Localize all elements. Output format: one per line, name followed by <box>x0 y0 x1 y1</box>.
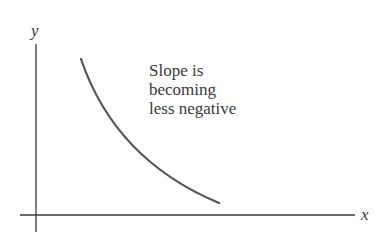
diagram-canvas: y x Slope is becoming less negative <box>0 0 378 244</box>
x-axis-label: x <box>360 205 369 224</box>
annotation-line-1: Slope is <box>149 61 203 80</box>
y-axis-label: y <box>29 21 39 40</box>
diagram-svg: y x Slope is becoming less negative <box>0 0 378 244</box>
slope-annotation: Slope is becoming less negative <box>149 61 236 118</box>
annotation-line-2: becoming <box>149 80 217 99</box>
annotation-line-3: less negative <box>149 99 236 118</box>
